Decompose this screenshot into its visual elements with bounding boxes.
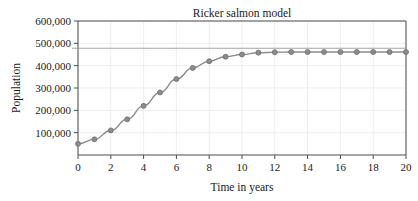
data-point-marker — [240, 52, 245, 57]
x-tick-label: 0 — [75, 161, 81, 173]
data-point-marker — [108, 128, 113, 133]
x-tick-label: 14 — [302, 161, 314, 173]
data-point-marker — [322, 50, 327, 55]
x-tick-label: 20 — [401, 161, 413, 173]
y-axis-label: Population — [10, 63, 23, 113]
y-tick-label: 400,000 — [35, 60, 71, 72]
ricker-salmon-model-chart: Ricker salmon model 100,000200,000300,00… — [0, 0, 418, 201]
data-point-marker — [223, 54, 228, 59]
data-point-marker — [256, 50, 261, 55]
y-tick-label: 500,000 — [35, 37, 71, 49]
x-tick-label: 4 — [141, 161, 147, 173]
data-point-marker — [158, 90, 163, 95]
x-tick-label: 18 — [368, 161, 380, 173]
data-point-marker — [305, 50, 310, 55]
x-tick-label: 2 — [108, 161, 114, 173]
chart-title: Ricker salmon model — [193, 7, 291, 19]
data-point-marker — [76, 141, 81, 146]
data-point-marker — [338, 50, 343, 55]
data-point-marker — [289, 50, 294, 55]
data-point-marker — [92, 137, 97, 142]
x-tick-label: 6 — [174, 161, 180, 173]
data-point-marker — [404, 50, 409, 55]
x-tick-label: 8 — [206, 161, 212, 173]
x-tick-label: 10 — [237, 161, 249, 173]
chart-figure: Ricker salmon model 100,000200,000300,00… — [0, 0, 418, 201]
y-tick-label: 200,000 — [35, 104, 71, 116]
x-axis-label: Time in years — [211, 181, 274, 194]
y-tick-label: 300,000 — [35, 82, 71, 94]
data-point-marker — [272, 50, 277, 55]
x-tick-label: 12 — [269, 161, 280, 173]
data-point-marker — [174, 77, 179, 82]
y-tick-label: 100,000 — [35, 127, 71, 139]
data-point-marker — [387, 50, 392, 55]
data-point-marker — [207, 59, 212, 64]
y-tick-label: 600,000 — [35, 15, 71, 27]
data-point-marker — [354, 50, 359, 55]
x-tick-label: 16 — [335, 161, 347, 173]
data-point-marker — [371, 50, 376, 55]
data-point-marker — [190, 65, 195, 70]
data-point-marker — [125, 117, 130, 122]
data-point-marker — [141, 103, 146, 108]
